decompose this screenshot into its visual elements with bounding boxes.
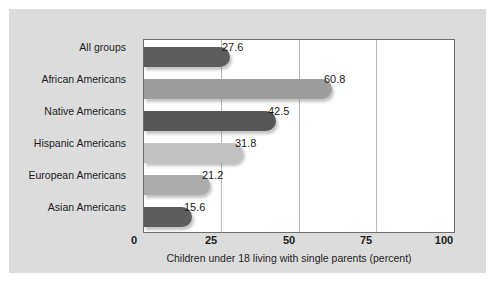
bar-all-groups[interactable] [144, 47, 230, 67]
category-label-european-americans: European Americans [0, 169, 126, 181]
value-label-hispanic-americans: 31.8 [235, 137, 256, 149]
category-label-all-groups: All groups [0, 41, 126, 53]
value-label-all-groups: 27.6 [222, 41, 243, 53]
value-label-european-americans: 21.2 [202, 169, 223, 181]
category-label-hispanic-americans: Hispanic Americans [0, 137, 126, 149]
gridline-50 [299, 40, 300, 232]
category-label-asian-americans: Asian Americans [0, 201, 126, 213]
xtick-75: 75 [346, 234, 386, 247]
category-label-african-americans: African Americans [0, 73, 126, 85]
value-label-asian-americans: 15.6 [184, 201, 205, 213]
xtick-0: 0 [114, 234, 154, 247]
xtick-100: 100 [424, 234, 464, 247]
gridline-25 [221, 40, 222, 232]
xtick-25: 25 [191, 234, 231, 247]
chart-figure: All groups African Americans Native Amer… [0, 0, 496, 282]
chart-panel: All groups African Americans Native Amer… [9, 9, 486, 273]
bar-native-americans[interactable] [144, 111, 276, 131]
bar-african-americans[interactable] [144, 79, 332, 99]
value-label-african-americans: 60.8 [324, 73, 345, 85]
category-label-native-americans: Native Americans [0, 105, 126, 117]
xtick-50: 50 [269, 234, 309, 247]
bar-european-americans[interactable] [144, 175, 210, 195]
value-label-native-americans: 42.5 [268, 105, 289, 117]
x-axis-title: Children under 18 living with single par… [134, 252, 444, 265]
bar-hispanic-americans[interactable] [144, 143, 243, 163]
gridline-75 [376, 40, 377, 232]
